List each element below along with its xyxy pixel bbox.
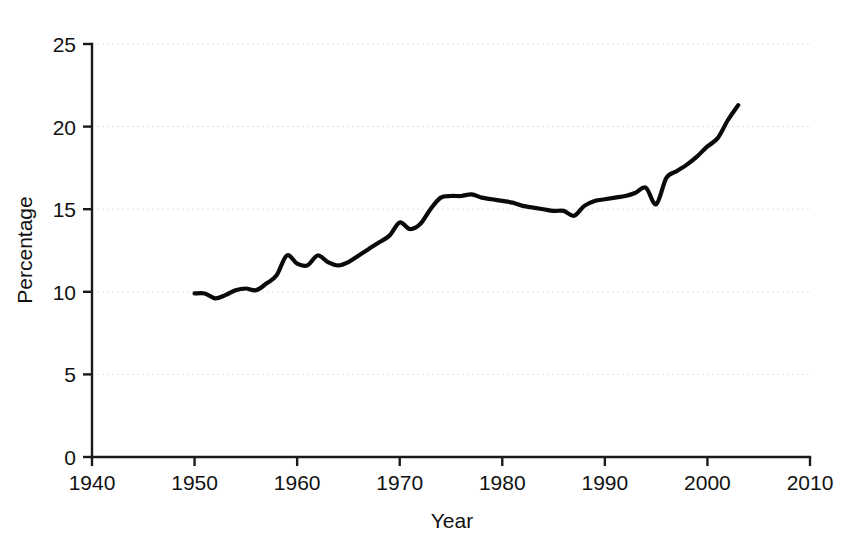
y-tick-label-0: 0 — [64, 446, 76, 469]
x-tick-label-1950: 1950 — [171, 471, 218, 494]
y-axis-ticks: 0510152025 — [53, 33, 92, 469]
x-tick-label-2010: 2010 — [787, 471, 834, 494]
y-tick-label-5: 5 — [64, 363, 76, 386]
x-tick-label-1960: 1960 — [274, 471, 321, 494]
chart-figure: 0510152025 19401950196019701980199020002… — [0, 0, 853, 540]
x-tick-label-1970: 1970 — [376, 471, 423, 494]
x-tick-label-1940: 1940 — [69, 471, 116, 494]
x-tick-label-1990: 1990 — [581, 471, 628, 494]
x-tick-label-1980: 1980 — [479, 471, 526, 494]
y-axis-title: Percentage — [13, 196, 36, 303]
gridlines-group — [92, 44, 810, 374]
data-series-line — [195, 105, 739, 298]
y-tick-label-15: 15 — [53, 198, 76, 221]
plot-area — [195, 105, 739, 298]
x-axis-ticks: 19401950196019701980199020002010 — [69, 457, 834, 494]
line-chart: 0510152025 19401950196019701980199020002… — [0, 0, 853, 540]
y-tick-label-10: 10 — [53, 281, 76, 304]
x-tick-label-2000: 2000 — [684, 471, 731, 494]
y-tick-label-25: 25 — [53, 33, 76, 56]
y-tick-label-20: 20 — [53, 116, 76, 139]
axes-group — [92, 44, 810, 457]
x-axis-title: Year — [431, 509, 473, 532]
